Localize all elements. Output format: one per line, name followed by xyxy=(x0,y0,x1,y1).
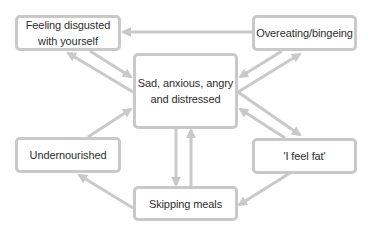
arrow-disgusted-to-sad xyxy=(90,51,131,77)
node-sad-anxious-line1: Sad, anxious, angry xyxy=(138,75,233,91)
node-undernourished-label: Undernourished xyxy=(30,147,107,163)
node-skipping-meals: Skipping meals xyxy=(133,186,238,221)
eating-cycle-diagram: Feeling disgusted with yourself Overeati… xyxy=(0,0,366,239)
node-feel-fat-label: 'I feel fat' xyxy=(283,148,325,164)
arrow-feelfat-to-skipping xyxy=(239,173,290,205)
node-overeating-label: Overeating/bingeing xyxy=(256,25,353,41)
node-feeling-disgusted-line2: with yourself xyxy=(26,33,111,49)
node-feel-fat: 'I feel fat' xyxy=(252,138,357,174)
node-sad-anxious: Sad, anxious, angry and distressed xyxy=(133,53,238,129)
arrow-feelfat-to-sad xyxy=(240,109,285,138)
arrow-undernourished-to-sad xyxy=(88,109,131,137)
node-undernourished: Undernourished xyxy=(15,137,121,173)
arrow-skipping-to-undernourished xyxy=(79,175,133,208)
node-overeating: Overeating/bingeing xyxy=(252,15,357,51)
arrow-overeating-to-sad xyxy=(240,51,282,77)
node-feeling-disgusted: Feeling disgusted with yourself xyxy=(15,15,121,51)
node-sad-anxious-line2: and distressed xyxy=(138,91,233,107)
node-skipping-meals-label: Skipping meals xyxy=(149,196,222,212)
node-feeling-disgusted-line1: Feeling disgusted xyxy=(26,17,111,33)
